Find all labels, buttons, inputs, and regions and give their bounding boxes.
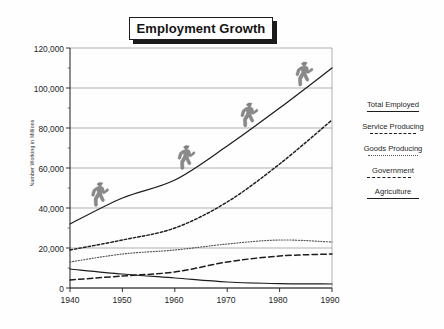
legend-label: Government bbox=[344, 166, 442, 176]
legend-swatch-dashed-long bbox=[367, 177, 419, 181]
walking-person-silhouette bbox=[177, 145, 197, 170]
data-series bbox=[70, 68, 332, 284]
legend-label: Service Producing bbox=[344, 122, 442, 132]
legend-label: Goods Producing bbox=[344, 144, 442, 154]
legend-swatch-solid bbox=[367, 198, 419, 203]
legend-item-goods-producing[interactable]: Goods Producing bbox=[344, 144, 442, 160]
walking-person-silhouette bbox=[295, 61, 315, 86]
walking-person-silhouette bbox=[90, 182, 110, 207]
legend-item-government[interactable]: Government bbox=[344, 166, 442, 181]
series-line-total-employed bbox=[70, 68, 332, 224]
series-line-service-producing bbox=[70, 120, 332, 250]
legend-item-service-producing[interactable]: Service Producing bbox=[344, 122, 442, 138]
walker-figures bbox=[90, 61, 314, 207]
legend-label: Agriculture bbox=[344, 187, 442, 197]
walking-person-silhouette bbox=[240, 102, 260, 127]
walking-person-icon bbox=[177, 145, 197, 170]
legend-item-total-employed[interactable]: Total Employed bbox=[344, 100, 442, 116]
walking-person-icon bbox=[90, 182, 110, 207]
legend-swatch-solid bbox=[367, 111, 419, 116]
walking-person-icon bbox=[295, 61, 315, 86]
legend-label: Total Employed bbox=[344, 100, 442, 110]
chart-page: Employment Growth Number Working in Mill… bbox=[0, 0, 444, 329]
gridlines bbox=[70, 48, 332, 288]
series-line-goods-producing bbox=[70, 240, 332, 262]
legend-swatch-dashed-medium bbox=[370, 133, 416, 138]
legend-item-agriculture[interactable]: Agriculture bbox=[344, 187, 442, 203]
legend-swatch-line bbox=[367, 177, 411, 178]
legend-swatch-dotted-fine bbox=[368, 155, 418, 160]
walking-person-icon bbox=[240, 102, 260, 127]
series-line-government bbox=[70, 254, 332, 280]
chart-legend: Total Employed Service Producing Goods P… bbox=[344, 100, 442, 209]
axis-ticks bbox=[66, 48, 332, 292]
